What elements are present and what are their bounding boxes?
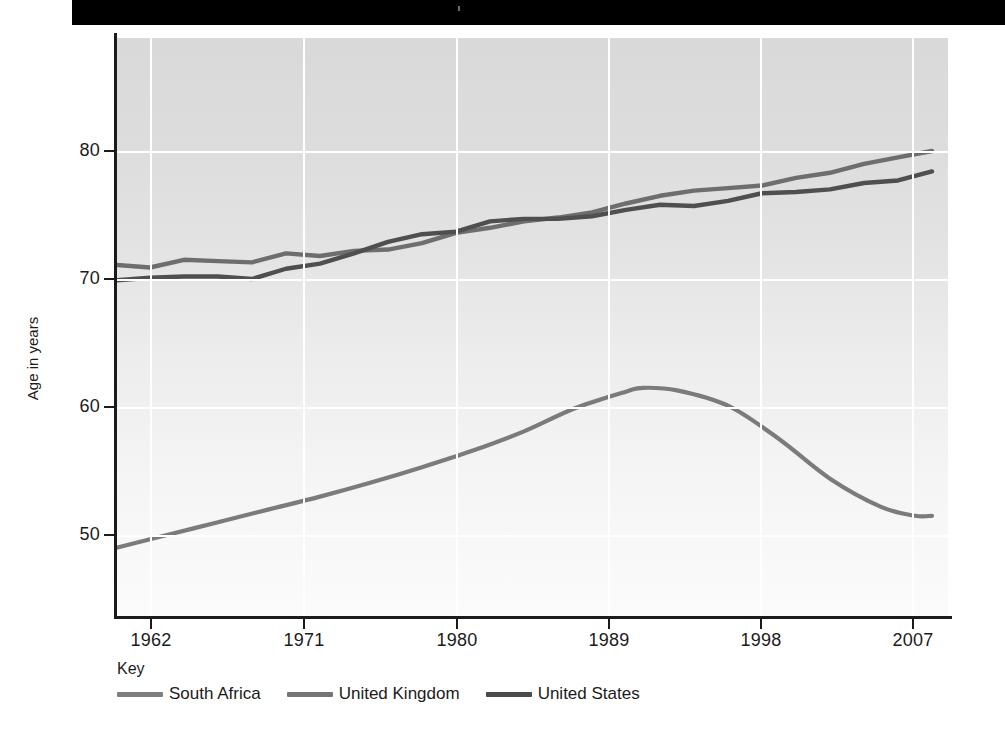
legend-swatch-icon [287,692,333,697]
legend-label: South Africa [169,684,261,704]
legend-label: United Kingdom [339,684,460,704]
y-axis-line [114,33,117,618]
legend-item-united-kingdom[interactable]: United Kingdom [287,684,460,704]
y-tick-label-50: 50 [54,524,100,545]
y-tick-80: 80 [0,140,100,162]
legend-item-united-states[interactable]: United States [486,684,640,704]
gridline-y-70 [117,279,948,281]
legend-item-south-africa[interactable]: South Africa [117,684,261,704]
y-tick-label-60: 60 [54,396,100,417]
x-axis-line [114,616,952,619]
y-tick-50: 50 [0,524,100,546]
gridline-x-1971 [303,38,305,616]
chart-legend: Key South AfricaUnited KingdomUnited Sta… [117,660,817,704]
series-plot-svg [117,38,948,616]
x-tick-label-1971: 1971 [264,630,344,651]
x-tick-label-1989: 1989 [569,630,649,651]
line-chart-figure: 80 70 60 50 Age in years 1962 1971 1980 … [0,0,1005,752]
y-tick-70: 70 [0,268,100,290]
y-tick-label-70: 70 [54,268,100,289]
x-tick-mark-1971 [303,619,305,629]
x-tick-mark-1998 [760,619,762,629]
gridline-x-1962 [150,38,152,616]
legend-items: South AfricaUnited KingdomUnited States [117,684,817,704]
legend-swatch-icon [117,692,163,697]
x-tick-mark-2007 [912,619,914,629]
gridline-x-1989 [608,38,610,616]
series-line-south-africa [117,388,932,548]
x-tick-label-1998: 1998 [721,630,801,651]
x-tick-mark-1962 [150,619,152,629]
y-tick-label-80: 80 [54,140,100,161]
x-tick-label-1980: 1980 [417,630,497,651]
legend-label: United States [538,684,640,704]
x-tick-label-2007: 2007 [873,630,953,651]
legend-title: Key [117,660,817,678]
gridline-y-80 [117,151,948,153]
x-tick-label-1962: 1962 [111,630,191,651]
gridline-x-2007 [912,38,914,616]
x-tick-mark-1980 [456,619,458,629]
gridline-y-50 [117,535,948,537]
legend-swatch-icon [486,692,532,697]
plot-area [117,38,948,616]
gridline-x-1998 [760,38,762,616]
y-tick-60: 60 [0,396,100,418]
y-axis-title: Age in years [24,269,41,449]
series-line-united-kingdom [117,151,932,267]
gridline-y-60 [117,407,948,409]
gridline-x-1980 [456,38,458,616]
x-tick-mark-1989 [608,619,610,629]
